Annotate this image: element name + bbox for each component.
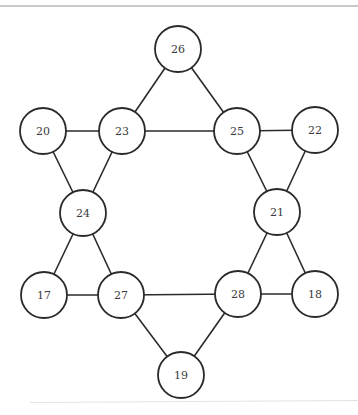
node-label: 26: [171, 43, 185, 56]
node-23: 23: [99, 108, 145, 154]
node-25: 25: [214, 108, 260, 154]
node-label: 27: [114, 289, 128, 302]
node-28: 28: [215, 271, 261, 317]
node-22: 22: [292, 107, 338, 153]
star-graph: 262023252224211727281819: [0, 0, 358, 415]
node-27: 27: [98, 272, 144, 318]
node-19: 19: [158, 352, 204, 398]
node-label: 20: [36, 125, 50, 138]
node-label: 23: [115, 125, 129, 138]
node-26: 26: [155, 26, 201, 72]
node-24: 24: [60, 190, 106, 236]
nodes-layer: 262023252224211727281819: [20, 26, 338, 398]
node-label: 28: [231, 288, 245, 301]
node-label: 19: [174, 369, 188, 382]
node-label: 24: [76, 207, 90, 220]
node-17: 17: [21, 272, 67, 318]
node-label: 25: [230, 125, 244, 138]
node-label: 17: [37, 289, 51, 302]
node-label: 18: [308, 288, 322, 301]
node-18: 18: [292, 271, 338, 317]
node-label: 21: [270, 206, 284, 219]
node-label: 22: [308, 124, 322, 137]
node-20: 20: [20, 108, 66, 154]
node-21: 21: [254, 189, 300, 235]
